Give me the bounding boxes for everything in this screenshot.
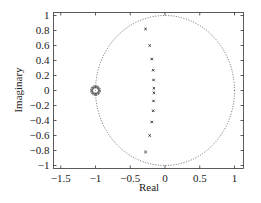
x-tick-label: 0.5 (193, 172, 207, 184)
x-tick-label: 0 (162, 172, 168, 184)
y-tick-label: −0.2 (30, 99, 50, 111)
unit-circle (96, 16, 235, 166)
x-axis-ticks: −1.5−1−0.500.51 (51, 13, 237, 184)
y-tick-label: 0.8 (36, 24, 50, 36)
y-tick-label: −0.4 (30, 114, 50, 126)
pole-zero-plot: −1.5−1−0.500.51 10.80.60.40.20−0.2−0.4−0… (0, 0, 261, 203)
plot-frame (54, 13, 244, 169)
y-tick-label: 1 (44, 9, 50, 21)
y-tick-label: 0.4 (36, 54, 50, 66)
y-axis-ticks: 10.80.60.40.20−0.2−0.4−0.6−0.8−1 (30, 9, 244, 171)
x-tick-label: 1 (232, 172, 238, 184)
poles-markers (144, 28, 155, 153)
y-tick-label: −0.6 (30, 129, 50, 141)
y-tick-label: −0.8 (30, 144, 50, 156)
y-tick-label: 0.6 (36, 39, 50, 51)
x-tick-label: −1 (90, 172, 102, 184)
y-axis-label: Imaginary (12, 67, 24, 113)
y-tick-label: −1 (38, 159, 50, 171)
y-tick-label: 0 (44, 84, 50, 96)
y-tick-label: 0.2 (36, 69, 50, 81)
x-tick-label: −1.5 (51, 172, 71, 184)
x-tick-label: −0.5 (120, 172, 140, 184)
x-axis-label: Real (139, 181, 159, 193)
